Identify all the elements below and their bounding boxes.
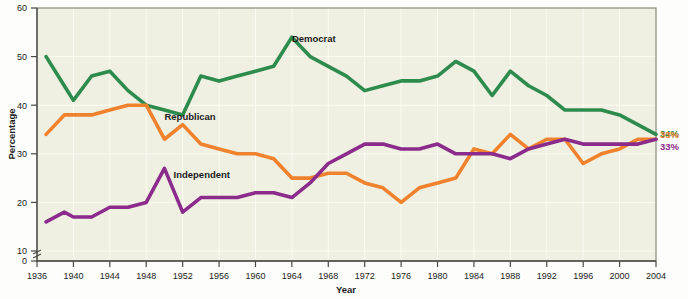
x-axis-title: Year — [336, 284, 356, 295]
x-tick-label: 1948 — [136, 271, 156, 281]
x-tick-label: 1976 — [391, 271, 411, 281]
end-label-republican: 33% — [660, 129, 680, 140]
x-tick-label: 1964 — [282, 271, 302, 281]
x-tick-label: 1968 — [318, 271, 338, 281]
y-tick-label: 40 — [17, 101, 27, 111]
chart-canvas: 0102030405060 19361940194419481952195619… — [0, 0, 688, 299]
y-tick-label: 30 — [17, 149, 27, 159]
x-tick-label: 2004 — [646, 271, 666, 281]
x-tick-label: 1936 — [27, 271, 47, 281]
annotation-independent: Independent — [174, 169, 231, 180]
x-tick-label: 1960 — [245, 271, 265, 281]
y-tick-label: 0 — [22, 256, 27, 266]
y-tick-label: 20 — [17, 198, 27, 208]
x-tick-label: 1988 — [500, 271, 520, 281]
x-tick-label: 1984 — [464, 271, 484, 281]
annotation-democrat: Democrat — [292, 33, 337, 44]
x-tick-label: 1980 — [428, 271, 448, 281]
y-axis-title: Percentage — [6, 108, 17, 159]
y-tick-label: 10 — [17, 246, 27, 256]
x-tick-label: 2000 — [610, 271, 630, 281]
end-label-independent: 33% — [660, 141, 680, 152]
y-tick-label: 50 — [17, 52, 27, 62]
x-tick-label: 1972 — [355, 271, 375, 281]
x-tick-label: 1952 — [173, 271, 193, 281]
y-tick-label: 60 — [17, 3, 27, 13]
x-tick-label: 1940 — [63, 271, 83, 281]
party-identification-chart: 0102030405060 19361940194419481952195619… — [0, 0, 688, 299]
plot-area-background — [37, 8, 656, 261]
x-tick-label: 1956 — [209, 271, 229, 281]
x-tick-label: 1944 — [100, 271, 120, 281]
end-value-labels: 34%33%33% — [660, 128, 680, 152]
annotation-republican: Republican — [164, 111, 215, 122]
x-tick-label: 1996 — [573, 271, 593, 281]
x-tick-label: 1992 — [537, 271, 557, 281]
